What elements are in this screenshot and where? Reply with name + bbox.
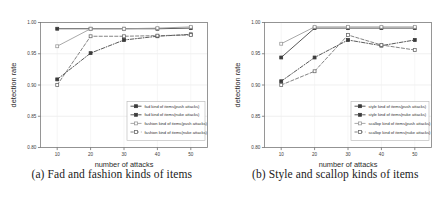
panel-a-data-point (56, 78, 59, 81)
panel-b-data-point (346, 34, 349, 37)
panel-b-xtick-label: 40 (378, 152, 384, 157)
panel-a-ytick-label: 0.80 (27, 145, 36, 150)
panel-b-ytick-label: 1.00 (251, 20, 260, 25)
panel-b-legend-marker (358, 113, 361, 116)
panel-a-data-point (56, 27, 59, 30)
panel-a-data-point (189, 34, 192, 37)
panel-a-legend-marker (135, 113, 138, 116)
panel-a-ytick-label: 0.85 (27, 114, 36, 119)
panel-a-legend: fad kind of items(push attacks)fad kind … (127, 102, 207, 141)
panel-a-data-point (156, 34, 159, 37)
panel-b-data-point (346, 39, 349, 42)
panel-a-chart-canvas: 0.800.850.900.951.001020304050number of … (0, 0, 224, 170)
panel-b-yaxis-title: detection rate (232, 63, 241, 108)
panel-b-xtick-label: 50 (412, 152, 418, 157)
panel-a-legend-marker (135, 122, 138, 125)
panel-b-ytick-label: 0.80 (251, 145, 260, 150)
panel-b-data-point (346, 25, 349, 28)
panel-b-legend-marker (358, 122, 361, 125)
panel-a-data-point (89, 52, 92, 55)
panel-b-legend-label: style kind of items(push attacks) (368, 104, 426, 109)
panel-b-data-point (279, 80, 282, 83)
panel-b-legend: style kind of items(push attacks)style k… (351, 102, 431, 141)
panel-a-yaxis-title: detection rate (9, 63, 18, 108)
panel-b-data-point (279, 42, 282, 45)
panel-b-plot: 0.800.850.900.951.001020304050number of … (224, 0, 447, 170)
panel-a-ytick-label: 0.95 (27, 51, 36, 56)
panel-a-data-point (123, 35, 126, 38)
figure-two-panel-charts: 0.800.850.900.951.001020304050number of … (0, 0, 447, 202)
panel-b-legend-label: style kind of items(nuke attacks) (368, 112, 426, 117)
panel-b-data-point (379, 44, 382, 47)
panel-a-xtick-label: 20 (88, 152, 94, 157)
panel-a-data-point (156, 27, 159, 30)
panel-a-xtick-label: 40 (155, 152, 161, 157)
panel-b-data-point (379, 25, 382, 28)
panel-b: 0.800.850.900.951.001020304050number of … (224, 0, 447, 202)
panel-a-xtick-label: 50 (188, 152, 194, 157)
panel-b-xtick-label: 30 (345, 152, 351, 157)
panel-b-legend-label: scallop kind of items(nuke attacks) (368, 130, 431, 135)
panel-a: 0.800.850.900.951.001020304050number of … (0, 0, 224, 202)
panel-a-data-point (89, 35, 92, 38)
panel-b-data-point (279, 56, 282, 59)
panel-a-legend-label: fad kind of items(nuke attacks) (145, 112, 201, 117)
panel-b-ytick-label: 0.90 (251, 83, 260, 88)
panel-a-plot: 0.800.850.900.951.001020304050number of … (0, 0, 224, 170)
panel-b-xtick-label: 10 (278, 152, 284, 157)
panel-a-legend-label: fashion kind of items(push attacks) (145, 121, 208, 126)
panel-b-data-point (313, 25, 316, 28)
panel-a-xtick-label: 30 (121, 152, 127, 157)
panel-a-data-point (123, 27, 126, 30)
panel-a-data-point (189, 25, 192, 28)
panel-b-data-point (413, 49, 416, 52)
panel-a-ytick-label: 1.00 (27, 20, 36, 25)
panel-a-data-point (56, 84, 59, 87)
panel-a-ytick-label: 0.90 (27, 83, 36, 88)
panel-b-xtick-label: 20 (312, 152, 318, 157)
panel-a-caption: (a) Fad and fashion kinds of items (0, 168, 224, 180)
panel-b-legend-marker (358, 131, 361, 134)
panel-a-legend-marker (135, 131, 138, 134)
panel-a-data-point (56, 45, 59, 48)
panel-b-data-point (313, 56, 316, 59)
panel-a-data-point (123, 39, 126, 42)
panel-a-legend-marker (135, 105, 138, 108)
panel-b-data-point (279, 84, 282, 87)
panel-a-xtick-label: 10 (55, 152, 61, 157)
panel-b-data-point (313, 70, 316, 73)
panel-b-ytick-label: 0.85 (251, 114, 260, 119)
panel-b-caption: (b) Style and scallop kinds of items (224, 168, 447, 180)
panel-a-data-point (89, 27, 92, 30)
panel-b-chart-canvas: 0.800.850.900.951.001020304050number of … (224, 0, 447, 170)
panel-b-data-point (413, 39, 416, 42)
panel-a-legend-label: fashion kind of items(nuke attacks) (145, 130, 208, 135)
panel-b-data-point (413, 25, 416, 28)
panel-a-legend-label: fad kind of items(push attacks) (145, 104, 201, 109)
panel-b-legend-label: scallop kind of items(push attacks) (368, 121, 431, 126)
panel-b-ytick-label: 0.95 (251, 51, 260, 56)
panel-b-legend-marker (358, 105, 361, 108)
